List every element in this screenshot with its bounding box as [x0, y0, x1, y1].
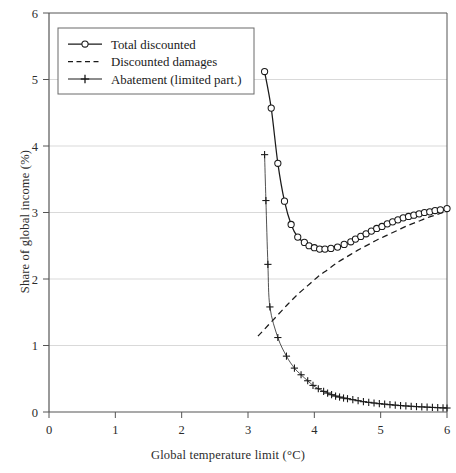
y-tick-label-0: 0: [32, 406, 38, 420]
series-line-abatement: [265, 155, 447, 408]
marker-circle-total-discounted: [444, 205, 450, 211]
marker-circle-total-discounted: [328, 245, 334, 251]
y-tick-label-2: 2: [32, 273, 38, 287]
legend-label-0: Total discounted: [111, 38, 196, 52]
plot-canvas: 01234560123456Total discountedDiscounted…: [0, 0, 456, 473]
x-axis-title: Global temperature limit (°C): [0, 448, 456, 463]
x-tick-label-1: 1: [112, 423, 118, 437]
y-tick-label-5: 5: [32, 73, 38, 87]
y-tick-label-3: 3: [32, 206, 38, 220]
marker-circle-total-discounted: [341, 241, 347, 247]
marker-circle-total-discounted: [295, 234, 301, 240]
legend-label-1: Discounted damages: [111, 55, 217, 69]
marker-circle-total-discounted: [268, 105, 274, 111]
x-tick-label-0: 0: [46, 423, 52, 437]
marker-circle-total-discounted: [275, 160, 281, 166]
y-tick-label-1: 1: [32, 339, 38, 353]
series-line-discounted-damages: [258, 211, 447, 336]
x-tick-label-3: 3: [245, 423, 251, 437]
y-tick-label-4: 4: [32, 140, 39, 154]
marker-circle-total-discounted: [288, 221, 294, 227]
chart-figure: 01234560123456Total discountedDiscounted…: [0, 0, 456, 473]
legend-label-2: Abatement (limited part.): [111, 73, 241, 87]
marker-circle-total-discounted: [261, 68, 267, 74]
y-axis-title: Share of global income (%): [18, 102, 33, 342]
x-tick-label-4: 4: [311, 423, 318, 437]
x-tick-label-5: 5: [378, 423, 384, 437]
marker-circle-total-discounted: [334, 244, 340, 250]
legend-marker-open-circle-icon: [82, 41, 88, 47]
marker-circle-total-discounted: [437, 207, 443, 213]
marker-circle-total-discounted: [281, 198, 287, 204]
y-tick-label-6: 6: [32, 7, 38, 21]
x-tick-label-2: 2: [179, 423, 185, 437]
marker-circle-total-discounted: [322, 246, 328, 252]
x-tick-label-6: 6: [444, 423, 450, 437]
